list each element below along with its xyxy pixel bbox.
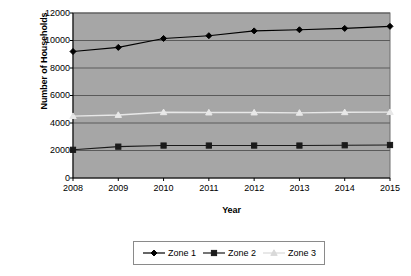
plot-area-svg [0,0,411,276]
legend-key-square-icon [202,247,226,259]
legend-key-diamond-icon [142,247,166,259]
legend-item-label: Zone 3 [288,249,316,258]
x-axis-tick-label: 2011 [199,184,218,193]
chart-legend: Zone 1Zone 2Zone 3 [133,241,325,265]
x-axis-title: Year [73,205,390,215]
data-point-marker-square [211,250,216,255]
x-axis-tick-label: 2014 [335,184,355,193]
data-point-marker-square [161,143,166,148]
x-axis-tick-label: 2012 [244,184,264,193]
legend-item-label: Zone 1 [168,249,196,258]
x-axis-tick-label: 2015 [380,184,400,193]
legend-item-zone-3[interactable]: Zone 3 [259,247,319,259]
x-axis-tick-label: 2010 [154,184,174,193]
data-point-marker-square [297,143,302,148]
legend-item-zone-2[interactable]: Zone 2 [199,247,259,259]
data-point-marker-diamond [151,250,157,256]
legend-item-zone-1[interactable]: Zone 1 [139,247,199,259]
legend-key-triangle-icon [262,247,286,259]
legend-item-label: Zone 2 [228,249,256,258]
data-point-marker-square [206,143,211,148]
x-axis-tick-label: 2009 [108,184,128,193]
x-axis-tick-label: 2008 [63,184,83,193]
data-point-marker-square [387,142,392,147]
data-point-marker-square [252,143,257,148]
x-axis-tick-label: 2013 [289,184,309,193]
data-point-marker-square [116,144,121,149]
data-point-marker-square [70,147,75,152]
data-point-marker-square [342,143,347,148]
line-chart: Number of Households 0200040006000800010… [0,0,411,276]
